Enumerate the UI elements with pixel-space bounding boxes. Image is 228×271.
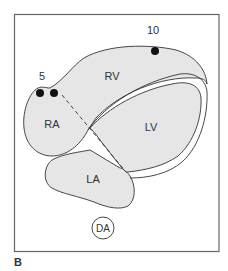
panel-label: B [14, 256, 22, 268]
marker-dot-5b [50, 89, 58, 97]
chamber-label-ra: RA [44, 118, 60, 130]
heart-diagram: 5 10 RV RA LV LA DA [0, 0, 228, 271]
marker-dot-5a [36, 89, 44, 97]
aorta-label: DA [96, 223, 110, 234]
marker-dot-10 [151, 47, 159, 55]
marker-label-10: 10 [147, 24, 159, 36]
chamber-label-la: LA [86, 173, 100, 185]
chamber-label-rv: RV [104, 70, 120, 82]
chamber-label-lv: LV [145, 121, 158, 133]
marker-label-5: 5 [39, 70, 45, 82]
